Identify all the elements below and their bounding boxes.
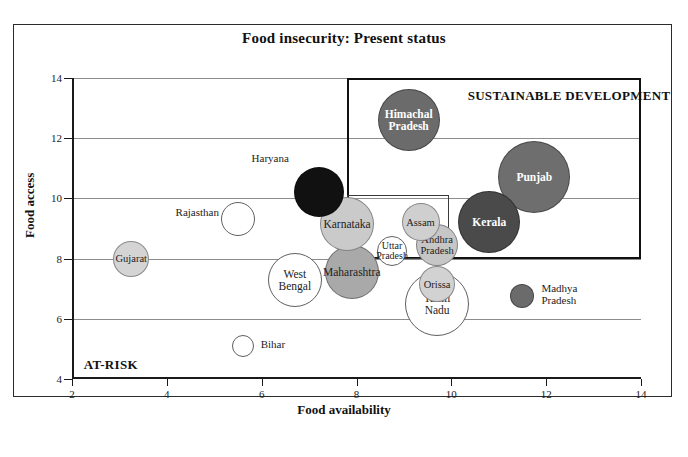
y-axis-title: Food access	[22, 173, 38, 238]
x-axis-title: Food availability	[0, 402, 688, 418]
bubble-uttar-pradesh[interactable]: Uttar Pradesh	[377, 236, 407, 266]
gridline-y-6	[72, 319, 641, 320]
x-tick-4	[167, 379, 168, 386]
bubble-label-haryana: Haryana	[252, 153, 289, 165]
y-tick-label-6: 6	[57, 313, 63, 325]
bubble-maharashtra[interactable]: Maharashtra	[325, 245, 379, 299]
x-tick-label-10: 10	[446, 388, 457, 400]
bubble-assam[interactable]: Assam	[402, 203, 440, 241]
y-tick-label-12: 12	[51, 132, 62, 144]
bubble-label-bihar: Bihar	[261, 339, 285, 351]
x-tick-6	[262, 379, 263, 386]
bubble-gujarat[interactable]: Gujarat	[113, 241, 149, 277]
bubble-label-punjab: Punjab	[516, 171, 552, 183]
x-tick-14	[641, 379, 642, 386]
y-tick-8	[64, 259, 72, 260]
y-tick-10	[64, 198, 72, 199]
bubble-label-assam: Assam	[406, 217, 435, 228]
bubble-label-orissa: Orissa	[424, 279, 451, 290]
x-tick-8	[357, 379, 358, 386]
bubble-label-kerala: Kerala	[472, 216, 506, 228]
x-tick-10	[451, 379, 452, 386]
bubble-west-bengal[interactable]: West Bengal	[268, 253, 322, 307]
y-tick-label-4: 4	[57, 373, 63, 385]
bubble-label-madhya-pradesh: Madhya Pradesh	[541, 283, 577, 307]
bubble-label-west-bengal: West Bengal	[279, 268, 312, 292]
plot-area: 468101214 2468101214 SUSTAINABLE DEVELOP…	[72, 78, 641, 379]
y-axis-line	[72, 78, 74, 379]
x-tick-2	[72, 379, 73, 386]
x-tick-label-14: 14	[636, 388, 647, 400]
at-risk-label: AT-RISK	[84, 357, 138, 373]
y-tick-6	[64, 319, 72, 320]
bubble-himachal-pradesh[interactable]: Himachal Pradesh	[378, 89, 440, 151]
bubble-madhya-pradesh[interactable]	[510, 284, 534, 308]
bubble-label-rajasthan: Rajasthan	[155, 207, 219, 219]
y-tick-label-8: 8	[57, 253, 63, 265]
x-tick-12	[546, 379, 547, 386]
x-tick-label-12: 12	[541, 388, 552, 400]
bubble-label-maharashtra: Maharashtra	[323, 266, 380, 278]
sustainable-development-label: SUSTAINABLE DEVELOPMENT	[468, 88, 671, 104]
bubble-rajasthan[interactable]	[221, 202, 255, 236]
x-tick-label-8: 8	[354, 388, 360, 400]
y-tick-label-10: 10	[51, 192, 62, 204]
y-tick-4	[64, 379, 72, 380]
x-tick-label-4: 4	[164, 388, 170, 400]
bubble-haryana[interactable]	[294, 167, 344, 217]
bubble-orissa[interactable]: Orissa	[419, 266, 455, 302]
y-tick-14	[64, 78, 72, 79]
y-tick-label-14: 14	[51, 72, 62, 84]
bubble-label-himachal-pradesh: Himachal Pradesh	[385, 108, 433, 132]
bubble-bihar[interactable]	[232, 335, 254, 357]
bubble-label-uttar-pradesh: Uttar Pradesh	[376, 241, 408, 262]
bubble-label-gujarat: Gujarat	[116, 253, 148, 264]
bubble-label-karnataka: Karnataka	[323, 218, 370, 230]
chart-title: Food insecurity: Present status	[0, 30, 688, 47]
x-tick-label-6: 6	[259, 388, 265, 400]
x-tick-label-2: 2	[69, 388, 75, 400]
figure-page: Food insecurity: Present status Food acc…	[0, 0, 688, 457]
y-tick-12	[64, 138, 72, 139]
